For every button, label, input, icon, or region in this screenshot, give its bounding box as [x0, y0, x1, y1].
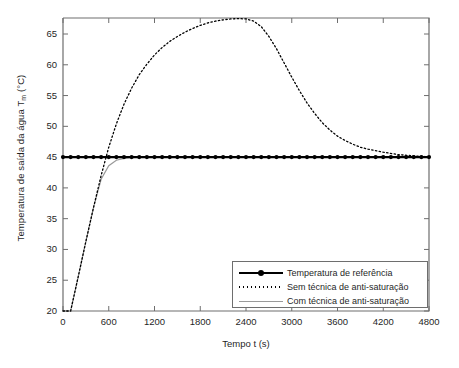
reference-marker — [297, 155, 301, 159]
reference-marker — [381, 155, 385, 159]
reference-marker — [244, 155, 248, 159]
plot-area — [0, 0, 459, 368]
reference-marker — [137, 155, 141, 159]
reference-marker — [160, 155, 164, 159]
reference-marker — [236, 155, 240, 159]
reference-marker — [84, 155, 88, 159]
reference-marker — [130, 155, 134, 159]
reference-marker — [358, 155, 362, 159]
reference-marker — [419, 155, 423, 159]
reference-marker — [76, 155, 80, 159]
reference-marker — [168, 155, 172, 159]
reference-marker — [267, 155, 271, 159]
reference-marker — [183, 155, 187, 159]
reference-marker — [152, 155, 156, 159]
legend-swatch-dotted — [239, 281, 283, 293]
legend: Temperatura de referência Sem técnica de… — [232, 261, 428, 308]
reference-marker — [91, 155, 95, 159]
reference-marker — [69, 155, 73, 159]
reference-marker — [274, 155, 278, 159]
reference-marker — [221, 155, 225, 159]
reference-marker — [290, 155, 294, 159]
legend-item-com-tecnica: Com técnica de anti-saturação — [239, 294, 409, 308]
reference-marker — [229, 155, 233, 159]
legend-label-referencia: Temperatura de referência — [287, 268, 393, 278]
reference-marker — [374, 155, 378, 159]
reference-marker — [122, 155, 126, 159]
reference-marker — [282, 155, 286, 159]
reference-marker — [328, 155, 332, 159]
reference-marker — [114, 155, 118, 159]
reference-marker — [343, 155, 347, 159]
reference-marker — [252, 155, 256, 159]
legend-label-com-tecnica: Com técnica de anti-saturação — [287, 296, 409, 306]
reference-marker — [366, 155, 370, 159]
legend-label-sem-tecnica: Sem técnica de anti-saturação — [287, 282, 409, 292]
reference-marker — [335, 155, 339, 159]
reference-marker — [175, 155, 179, 159]
legend-swatch-gray — [239, 295, 283, 307]
reference-marker — [191, 155, 195, 159]
reference-marker — [396, 155, 400, 159]
legend-swatch-solid-marker — [239, 267, 283, 279]
reference-marker — [427, 155, 431, 159]
reference-marker — [320, 155, 324, 159]
reference-marker — [99, 155, 103, 159]
reference-marker — [313, 155, 317, 159]
reference-marker — [206, 155, 210, 159]
reference-marker — [259, 155, 263, 159]
reference-marker — [213, 155, 217, 159]
chart-figure: Temperatura de saída da água Tm (°C) Tem… — [0, 0, 459, 368]
reference-marker — [145, 155, 149, 159]
reference-marker — [389, 155, 393, 159]
legend-item-sem-tecnica: Sem técnica de anti-saturação — [239, 280, 409, 294]
reference-marker — [351, 155, 355, 159]
legend-item-referencia: Temperatura de referência — [239, 266, 393, 280]
reference-markers — [61, 155, 431, 159]
reference-marker — [61, 155, 65, 159]
reference-marker — [198, 155, 202, 159]
reference-marker — [412, 155, 416, 159]
reference-marker — [305, 155, 309, 159]
reference-marker — [404, 155, 408, 159]
reference-marker — [107, 155, 111, 159]
